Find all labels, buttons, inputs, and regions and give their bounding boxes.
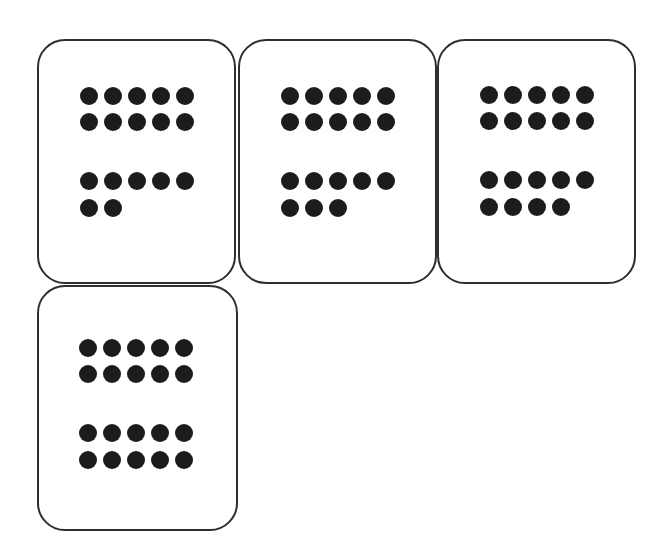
dot — [480, 171, 498, 189]
dot — [104, 87, 122, 105]
dot — [151, 451, 169, 469]
dot — [79, 451, 97, 469]
dot — [151, 365, 169, 383]
card-value-label: 20 — [39, 287, 40, 288]
dot — [552, 171, 570, 189]
dot — [552, 86, 570, 104]
dot — [552, 112, 570, 130]
dot — [103, 451, 121, 469]
dot — [80, 87, 98, 105]
dot — [305, 172, 323, 190]
dot-card-19: 19 — [437, 39, 636, 284]
dot — [128, 87, 146, 105]
dot — [80, 199, 98, 217]
dot — [281, 199, 299, 217]
dot-card-17: 17 — [37, 39, 236, 284]
dot — [152, 87, 170, 105]
dot — [175, 339, 193, 357]
dot — [79, 365, 97, 383]
dot — [127, 451, 145, 469]
dot — [152, 172, 170, 190]
dot — [80, 172, 98, 190]
dot — [103, 365, 121, 383]
dot — [128, 113, 146, 131]
dot — [175, 451, 193, 469]
dot — [504, 171, 522, 189]
dot — [281, 113, 299, 131]
dot — [175, 365, 193, 383]
dot — [504, 198, 522, 216]
dot — [353, 172, 371, 190]
dot-card-20: 20 — [37, 285, 238, 531]
dot — [480, 112, 498, 130]
dot — [103, 424, 121, 442]
dot — [480, 86, 498, 104]
card-value-label: 18 — [240, 41, 241, 42]
card-value-label: 19 — [439, 41, 440, 42]
dot — [528, 112, 546, 130]
dot — [377, 113, 395, 131]
dot — [528, 171, 546, 189]
dot — [353, 87, 371, 105]
card-value-label: 17 — [39, 41, 40, 42]
dot — [528, 198, 546, 216]
dot — [504, 86, 522, 104]
dot — [151, 339, 169, 357]
dot — [305, 199, 323, 217]
dot — [576, 86, 594, 104]
dot-card-18: 18 — [238, 39, 437, 284]
dot — [128, 172, 146, 190]
dot — [281, 172, 299, 190]
dot — [80, 113, 98, 131]
dot — [329, 199, 347, 217]
dot — [104, 113, 122, 131]
dot — [504, 112, 522, 130]
dot — [377, 172, 395, 190]
dot — [127, 365, 145, 383]
dot — [104, 172, 122, 190]
dot — [329, 87, 347, 105]
dot — [377, 87, 395, 105]
dot — [305, 113, 323, 131]
dot — [329, 172, 347, 190]
dot — [353, 113, 371, 131]
dot — [480, 198, 498, 216]
dot — [176, 87, 194, 105]
dot — [152, 113, 170, 131]
dot — [281, 87, 299, 105]
dot — [176, 113, 194, 131]
dot — [305, 87, 323, 105]
dot — [175, 424, 193, 442]
dot — [104, 199, 122, 217]
dot — [576, 171, 594, 189]
dot — [79, 424, 97, 442]
dot — [151, 424, 169, 442]
dot — [79, 339, 97, 357]
dot — [552, 198, 570, 216]
dot — [127, 339, 145, 357]
dot — [576, 112, 594, 130]
dot — [103, 339, 121, 357]
dot — [528, 86, 546, 104]
dot — [176, 172, 194, 190]
dot — [329, 113, 347, 131]
dot — [127, 424, 145, 442]
